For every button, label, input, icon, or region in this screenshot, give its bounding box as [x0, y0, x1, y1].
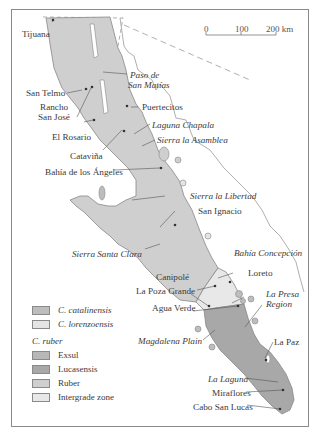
dot-san-ignacio — [174, 224, 177, 227]
island-sierra-asamblea — [159, 147, 169, 161]
label-san-ignacio: San Ignacio — [198, 206, 242, 216]
scale-tick-100: 100 — [235, 24, 249, 34]
label-loreto: Loreto — [248, 268, 273, 278]
dot-agua-verde — [237, 305, 240, 308]
island-small-1 — [175, 157, 181, 163]
label-cabo-san-lucas: Cabo San Lucas — [193, 402, 253, 412]
swatch-ruber — [32, 379, 50, 388]
swatch-intergrade — [32, 393, 50, 402]
label-paso-de-san-matias-2: San Matías — [128, 80, 170, 90]
scale-tick-200: 200 km — [266, 24, 293, 34]
label-bahia-de-los-angeles: Bahía de los Ángeles — [45, 167, 123, 177]
swatch-catalinensis — [32, 306, 50, 315]
label-agua-verde: Agua Verde — [152, 303, 195, 313]
label-catavina: Cataviña — [70, 151, 103, 161]
label-miraflores: Miraflores — [212, 388, 251, 398]
island-small-2 — [180, 180, 186, 186]
label-laguna-chapala: Laguna Chapala — [152, 120, 214, 130]
swatch-exsul — [32, 351, 50, 360]
isla-magdalena — [195, 326, 201, 332]
label-rancho-1: Rancho — [40, 102, 68, 112]
label-sierra-santa-clara: Sierra Santa Clara — [72, 249, 142, 259]
dot-cabo-san-lucas — [279, 408, 282, 411]
legend-label-exsul: Exsul — [58, 350, 79, 360]
label-puertecitos: Puertecitos — [142, 102, 183, 112]
label-tijuana: Tijuana — [22, 29, 50, 39]
isla-san-jose — [252, 318, 258, 324]
label-sierra-la-asamblea: Sierra la Asamblea — [157, 135, 228, 145]
isla-danzante — [241, 299, 246, 304]
legend-item-lucasensis: Lucasensis — [32, 364, 152, 378]
dot-loreto — [229, 281, 232, 284]
dot-el-rosario — [93, 119, 96, 122]
swatch-lucasensis — [32, 365, 50, 374]
legend-label-intergrade: Intergrade zone — [58, 392, 114, 402]
label-bahia-concepcion: Bahía Concepción — [234, 248, 302, 258]
legend-item-ruber: Ruber — [32, 378, 152, 392]
dot-la-paz — [265, 359, 268, 362]
isla-angel-de-la-guarda — [99, 186, 105, 200]
label-rancho-2: San José — [38, 112, 70, 122]
isla-santa-margarita — [209, 344, 215, 350]
island-small-3 — [205, 233, 211, 239]
dot-bahia-los-angeles — [160, 167, 163, 170]
legend-label-catalinensis: C. catalinensis — [58, 305, 112, 315]
legend-item-intergrade: Intergrade zone — [32, 392, 152, 406]
dot-la-poza-grande — [208, 305, 211, 308]
label-la-presa-1: La Presa — [266, 289, 299, 299]
scale-bar: 0 100 200 km — [200, 24, 295, 40]
dot-canipole — [214, 285, 217, 288]
label-la-presa-2: Region — [266, 299, 292, 309]
dot-tijuana — [52, 19, 55, 22]
legend-group-title: C. ruber — [32, 336, 63, 346]
legend-item-lorenzoensis: C. lorenzoensis — [32, 319, 152, 333]
scale-tick-0: 0 — [204, 24, 209, 34]
legend-label-lorenzoensis: C. lorenzoensis — [58, 319, 113, 329]
label-san-telmo: San Telmo — [26, 88, 65, 98]
label-la-laguna: La Laguna — [208, 374, 248, 384]
legend-label-ruber: Ruber — [58, 378, 80, 388]
dot-catavina — [123, 130, 126, 133]
legend-label-lucasensis: Lucasensis — [58, 364, 98, 374]
legend-group-title-row: C. ruber — [32, 336, 152, 350]
swatch-lorenzoensis — [32, 320, 50, 329]
dot-puertecitos — [126, 105, 129, 108]
label-el-rosario: El Rosario — [52, 132, 91, 142]
label-paso-de-san-matias-1: Paso de — [130, 70, 159, 80]
legend-item-exsul: Exsul — [32, 350, 152, 364]
label-la-paz: La Paz — [274, 337, 299, 347]
isla-carmen — [236, 291, 243, 298]
label-la-poza-grande: La Poza Grande — [136, 286, 195, 296]
label-sierra-la-libertad: Sierra la Libertad — [190, 191, 256, 201]
dot-rancho-san-jose — [91, 86, 94, 89]
label-canipole: Canipolé — [156, 272, 189, 282]
isla-catalina — [248, 296, 254, 302]
legend-item-catalinensis: C. catalinensis — [32, 305, 152, 319]
dot-san-telmo — [85, 88, 88, 91]
legend: C. catalinensis C. lorenzoensis C. ruber… — [32, 305, 152, 406]
dot-miraflores — [282, 389, 285, 392]
